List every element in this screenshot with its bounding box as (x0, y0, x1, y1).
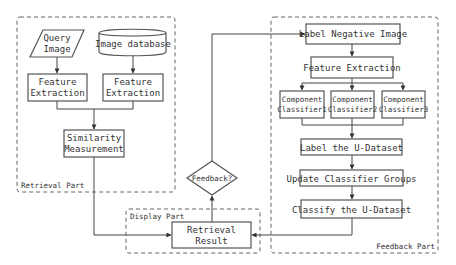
fe-db-label-2: Extraction (106, 88, 160, 98)
feedback-part-label: Feedback Part (376, 242, 435, 251)
image-database-label: Image database (95, 39, 171, 49)
display-part-label: Display Part (130, 212, 184, 221)
retrieval-part-label: Retrieval Part (21, 181, 84, 190)
node-retrieval-result: Retrieval Result (172, 222, 251, 248)
edge-fe-merge (57, 101, 133, 109)
node-query-image: Query Image (30, 30, 84, 57)
similarity-label-2: Measurement (64, 144, 124, 154)
fe-db-label-1: Feature (114, 77, 152, 87)
node-component-classifier-3: Component Classifier3 (379, 91, 429, 118)
retrieval-result-label-2: Result (195, 236, 228, 246)
classifier-3-label-2: Classifier3 (379, 105, 429, 114)
node-classify-u-dataset: Classify the U-Dataset (292, 200, 411, 218)
node-similarity-measurement: Similarity Measurement (64, 130, 124, 157)
classify-u-dataset-label: Classify the U-Dataset (292, 205, 411, 215)
label-u-dataset-label: Label the U-Dataset (300, 143, 403, 153)
classifier-1-label-2: Classifier1 (277, 105, 327, 114)
node-feature-extraction-query: Feature Extraction (28, 74, 87, 101)
similarity-label-1: Similarity (67, 133, 122, 143)
node-component-classifier-1: Component Classifier1 (277, 91, 327, 118)
node-feature-extraction-db: Feature Extraction (103, 74, 163, 101)
classifier-2-label-2: Classifier2 (328, 105, 378, 114)
fe-query-label-1: Feature (39, 77, 77, 87)
classifier-1-label-1: Component (282, 95, 323, 104)
classifier-2-label-1: Component (332, 95, 373, 104)
node-feature-extraction-fb: Feature Extraction (303, 57, 401, 78)
node-label-negative-image: Label Negative Image (299, 24, 407, 44)
node-feedback-decision: Feedback? (187, 161, 237, 195)
query-image-label-2: Image (43, 44, 70, 54)
edge-classify-to-result (252, 218, 352, 235)
node-component-classifier-2: Component Classifier2 (328, 91, 378, 118)
label-negative-image-label: Label Negative Image (299, 29, 407, 39)
classifier-3-label-1: Component (383, 95, 424, 104)
fe-fb-label: Feature Extraction (303, 63, 401, 73)
edge-similarity-to-result (94, 157, 171, 235)
feedback-decision-label: Feedback? (192, 174, 233, 183)
query-image-label-1: Query (43, 33, 71, 43)
update-classifier-groups-label: Update Classifier Groups (286, 174, 416, 184)
retrieval-feedback-flowchart: Retrieval Part Display Part Feedback Par… (0, 0, 456, 265)
node-label-u-dataset: Label the U-Dataset (300, 139, 403, 155)
fe-query-label-2: Extraction (30, 88, 84, 98)
node-update-classifier-groups: Update Classifier Groups (286, 170, 416, 186)
node-image-database: Image database (95, 29, 171, 56)
retrieval-result-label-1: Retrieval (187, 225, 236, 235)
